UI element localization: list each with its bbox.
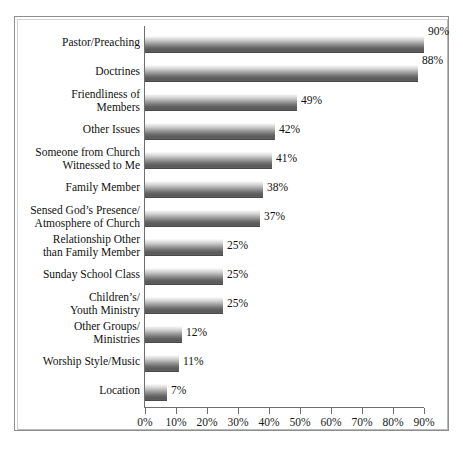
category-label: Other Issues [0, 123, 140, 136]
bar [145, 239, 223, 256]
bar [145, 355, 179, 372]
bar [145, 384, 167, 401]
bar-row: Worship Style/Music11% [0, 349, 463, 378]
axis-tick [393, 408, 394, 414]
bar-value-label: 38% [267, 181, 288, 193]
category-label: Other Groups/ Ministries [0, 320, 140, 345]
axis-tick [207, 408, 208, 414]
axis-tick-label: 90% [406, 416, 442, 428]
category-label: Doctrines [0, 65, 140, 78]
axis-tick [238, 408, 239, 414]
bar [145, 326, 182, 343]
bar-value-label: 11% [183, 355, 204, 367]
bar-value-label: 37% [264, 210, 285, 222]
bar-row: Sunday School Class25% [0, 262, 463, 291]
bar-value-label: 49% [301, 94, 322, 106]
bar-value-label: 25% [227, 297, 248, 309]
chart-figure: 0%10%20%30%40%50%60%70%80%90% Pastor/Pre… [0, 0, 463, 451]
axis-tick [269, 408, 270, 414]
plot-area: 0%10%20%30%40%50%60%70%80%90% Pastor/Pre… [0, 0, 463, 451]
bar [145, 152, 272, 169]
bar [145, 210, 260, 227]
bar-row: Pastor/Preaching90% [0, 30, 463, 59]
bar-row: Children’s/ Youth Ministry25% [0, 291, 463, 320]
bar-row: Relationship Other than Family Member25% [0, 233, 463, 262]
bar [145, 268, 223, 285]
axis-tick [362, 408, 363, 414]
category-label: Sensed God’s Presence/ Atmosphere of Chu… [0, 204, 140, 229]
bar-value-label: 7% [171, 384, 186, 396]
bar [145, 65, 418, 82]
bar-row: Sensed God’s Presence/ Atmosphere of Chu… [0, 204, 463, 233]
bar [145, 36, 424, 53]
category-label: Worship Style/Music [0, 355, 140, 368]
bar-value-label: 42% [279, 123, 300, 135]
bar-value-label: 41% [276, 152, 297, 164]
axis-tick [300, 408, 301, 414]
bar-row: Friendliness of Members49% [0, 88, 463, 117]
bar [145, 123, 275, 140]
bar-row: Someone from Church Witnessed to Me41% [0, 146, 463, 175]
category-label: Friendliness of Members [0, 88, 140, 113]
axis-tick [331, 408, 332, 414]
bar-value-label: 88% [422, 54, 443, 66]
bar-value-label: 25% [227, 239, 248, 251]
bar-row: Other Issues42% [0, 117, 463, 146]
axis-tick [424, 408, 425, 414]
bar [145, 94, 297, 111]
category-label: Pastor/Preaching [0, 36, 140, 49]
category-label: Relationship Other than Family Member [0, 233, 140, 258]
category-label: Family Member [0, 181, 140, 194]
bar-row: Other Groups/ Ministries12% [0, 320, 463, 349]
bar-value-label: 90% [428, 25, 449, 37]
axis-tick [145, 408, 146, 414]
category-label: Children’s/ Youth Ministry [0, 291, 140, 316]
bar-value-label: 25% [227, 268, 248, 280]
category-label: Someone from Church Witnessed to Me [0, 146, 140, 171]
bar-row: Family Member38% [0, 175, 463, 204]
value-axis-line [144, 407, 424, 408]
bar [145, 297, 223, 314]
category-label: Sunday School Class [0, 268, 140, 281]
category-label: Location [0, 384, 140, 397]
bar-value-label: 12% [186, 326, 207, 338]
axis-tick [176, 408, 177, 414]
bar-row: Location7% [0, 378, 463, 407]
bar-row: Doctrines88% [0, 59, 463, 88]
bar [145, 181, 263, 198]
